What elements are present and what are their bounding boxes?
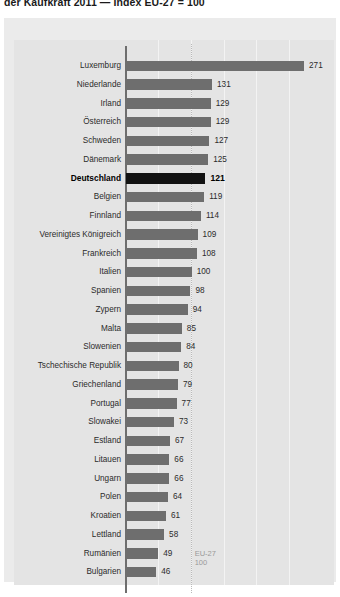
bar-row: Luxemburg271 (14, 58, 334, 73)
bar-category-label: Ungarn (14, 471, 121, 486)
bar (126, 454, 169, 465)
bar-row: Schweden127 (14, 133, 334, 148)
bar-value-label: 80 (184, 358, 193, 373)
chart-panel: EU-27100Luxemburg271Niederlande131Irland… (4, 18, 336, 582)
bar-value-label: 119 (209, 189, 222, 204)
bar-row: Niederlande131 (14, 77, 334, 92)
bar-value-label: 85 (187, 321, 196, 336)
bar (126, 154, 208, 165)
bar-value-label: 129 (216, 96, 230, 111)
bar-row: Italien100 (14, 264, 334, 279)
bar-value-label: 58 (169, 527, 178, 542)
bar-row: Österreich129 (14, 114, 334, 129)
plot-inner: EU-27100Luxemburg271Niederlande131Irland… (14, 40, 334, 585)
bar (126, 473, 169, 484)
bar-category-label: Malta (14, 321, 121, 336)
bar-category-label: Frankreich (14, 246, 121, 261)
bar (126, 229, 198, 240)
bar (126, 304, 188, 315)
bar-row: Litauen66 (14, 452, 334, 467)
chart-title: der Kaufkraft 2011 — Index EU-27 = 100 (4, 0, 205, 8)
bar-value-label: 84 (186, 339, 195, 354)
bar-value-label: 114 (206, 208, 219, 223)
bar-category-label: Rumänien (14, 546, 121, 561)
bar-value-label: 125 (213, 152, 227, 167)
bar-value-label: 46 (161, 564, 170, 579)
bar (126, 136, 209, 147)
bar-category-label: Niederlande (14, 77, 121, 92)
bar (126, 248, 197, 259)
bar-value-label: 94 (193, 302, 202, 317)
bar-row: Malta85 (14, 321, 334, 336)
bar-category-label: Griechenland (14, 377, 121, 392)
bar-category-label: Vereinigtes Königreich (14, 227, 121, 242)
bar-category-label: Österreich (14, 114, 121, 129)
bar-value-label: 271 (309, 58, 323, 73)
bar-category-label: Litauen (14, 452, 121, 467)
bar-category-label: Luxemburg (14, 58, 121, 73)
bar (126, 548, 158, 559)
bar-category-label: Bulgarien (14, 564, 121, 579)
bar-category-label: Italien (14, 264, 121, 279)
bar-value-label: 73 (179, 414, 188, 429)
bar-value-label: 66 (174, 471, 183, 486)
bar-value-label: 66 (174, 452, 183, 467)
bar-value-label: 109 (203, 227, 217, 242)
bar-row: Frankreich108 (14, 246, 334, 261)
bar-row: Finnland114 (14, 208, 334, 223)
bar-value-label: 98 (195, 283, 204, 298)
bar (126, 79, 212, 90)
bar-value-label: 108 (202, 246, 216, 261)
bar-row: Polen64 (14, 489, 334, 504)
bar-row: Vereinigtes Königreich109 (14, 227, 334, 242)
bar (126, 117, 211, 128)
bar-category-label: Lettland (14, 527, 121, 542)
bar-category-label: Slowenien (14, 339, 121, 354)
bar-value-label: 61 (171, 508, 180, 523)
bar-category-label: Estland (14, 433, 121, 448)
bar-category-label: Spanien (14, 283, 121, 298)
bar-row: Rumänien49 (14, 546, 334, 561)
bar-row: Kroatien61 (14, 508, 334, 523)
bar (126, 567, 156, 578)
bar (126, 492, 168, 503)
bar-category-label: Deutschland (14, 171, 121, 186)
bar-category-label: Zypern (14, 302, 121, 317)
bar-category-label: Schweden (14, 133, 121, 148)
bar (126, 98, 211, 109)
bar-value-label: 100 (197, 264, 211, 279)
bar (126, 511, 166, 522)
bar-row: Griechenland79 (14, 377, 334, 392)
bar-category-label: Polen (14, 489, 121, 504)
bar-row: Ungarn66 (14, 471, 334, 486)
bar-category-label: Dänemark (14, 152, 121, 167)
bar-category-label: Irland (14, 96, 121, 111)
bar-row: Portugal77 (14, 396, 334, 411)
bar-row: Belgien119 (14, 189, 334, 204)
bar-row: Estland67 (14, 433, 334, 448)
bar-value-label: 131 (217, 77, 231, 92)
bar-row: Irland129 (14, 96, 334, 111)
bar-value-label: 129 (216, 114, 230, 129)
bar (126, 361, 179, 372)
bar-row: Slowenien84 (14, 339, 334, 354)
bar-value-label: 64 (173, 489, 182, 504)
bar-value-label: 121 (210, 171, 224, 186)
bar (126, 323, 182, 334)
bar (126, 192, 204, 203)
bar-category-label: Tschechische Republik (14, 358, 121, 373)
bar (126, 286, 190, 297)
bar-category-label: Finnland (14, 208, 121, 223)
chart-screenshot: der Kaufkraft 2011 — Index EU-27 = 100 E… (0, 0, 340, 597)
bar-value-label: 79 (183, 377, 192, 392)
bar (126, 211, 201, 222)
bar (126, 529, 164, 540)
bar (126, 173, 205, 184)
bar-value-label: 67 (175, 433, 184, 448)
bar-row: Zypern94 (14, 302, 334, 317)
bar-category-label: Kroatien (14, 508, 121, 523)
bar-row: Tschechische Republik80 (14, 358, 334, 373)
bar-row: Deutschland121 (14, 171, 334, 186)
bar-category-label: Slowakei (14, 414, 121, 429)
bar-row: Dänemark125 (14, 152, 334, 167)
